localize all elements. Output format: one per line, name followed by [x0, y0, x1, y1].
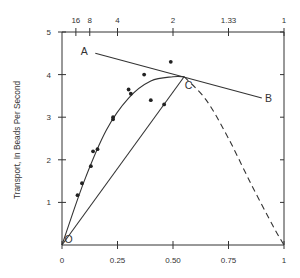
data-point — [89, 164, 93, 168]
data-point — [129, 92, 133, 96]
x-tick-label: 0 — [60, 256, 65, 265]
data-points — [76, 60, 173, 197]
annotation-c: C — [185, 79, 193, 91]
top-tick-label: 4 — [115, 16, 120, 25]
x-tick-label: 0.50 — [165, 256, 181, 265]
x-tick-label: 0.25 — [110, 256, 126, 265]
line-o-c — [62, 77, 184, 245]
data-point — [91, 149, 95, 153]
top-tick-label: 2 — [171, 16, 176, 25]
annotation-o: O — [65, 233, 73, 245]
y-axis-label: Transport, In Beads Per Second — [12, 81, 22, 200]
y-tick-label: 1 — [47, 198, 52, 207]
y-tick-label: 5 — [47, 28, 52, 37]
data-point — [80, 181, 84, 185]
top-tick-label: 16 — [71, 16, 80, 25]
chart: 00.250.500.751168421.33112345 ABCO Trans… — [0, 0, 300, 278]
axes — [62, 32, 284, 245]
data-point — [76, 193, 80, 197]
annotations: ABCO — [65, 45, 272, 244]
data-point — [169, 60, 173, 64]
tangent-a-b — [95, 53, 261, 98]
y-tick-label: 2 — [47, 156, 52, 165]
x-tick-label: 1 — [282, 256, 287, 265]
data-point — [149, 98, 153, 102]
y-tick-label: 4 — [47, 71, 52, 80]
x-tick-label: 0.75 — [221, 256, 237, 265]
data-point — [96, 147, 100, 151]
data-point — [162, 103, 166, 107]
plot-lines — [62, 53, 284, 245]
top-tick-label: 1.33 — [221, 16, 237, 25]
annotation-b: B — [265, 92, 272, 104]
annotation-a: A — [81, 45, 88, 57]
data-point — [127, 88, 131, 92]
data-point — [111, 115, 115, 119]
top-tick-label: 1 — [282, 16, 287, 25]
y-tick-label: 3 — [47, 113, 52, 122]
top-tick-label: 8 — [88, 16, 93, 25]
data-point — [142, 73, 146, 77]
